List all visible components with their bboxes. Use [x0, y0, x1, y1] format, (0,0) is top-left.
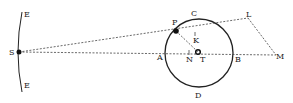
line-SL: [19, 18, 248, 52]
label-L: L: [246, 10, 252, 19]
label-E-bottom: E: [24, 81, 30, 90]
label-N: N: [186, 55, 193, 64]
point-S: [17, 50, 22, 55]
point-P: [173, 28, 179, 34]
label-M: M: [276, 52, 284, 61]
label-E-top: E: [24, 10, 30, 19]
label-S: S: [9, 48, 14, 57]
label-K: K: [193, 36, 200, 45]
label-P: P: [172, 18, 178, 27]
label-A: A: [156, 53, 163, 62]
label-D: D: [195, 91, 201, 100]
label-B: B: [235, 55, 241, 64]
label-C: C: [191, 9, 197, 18]
line-LM: [248, 18, 276, 55]
diagram: E E S P C K L A N T B M D: [0, 0, 293, 103]
label-T: T: [200, 55, 206, 64]
